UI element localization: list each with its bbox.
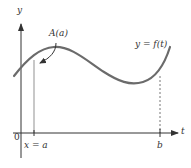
curve-label: y = f(t)	[135, 40, 167, 49]
area-annotation-label: A(a)	[49, 29, 68, 38]
b-marker-label: b	[157, 141, 163, 150]
a-marker-label: x = a	[24, 141, 48, 150]
area-function-diagram: y t 0 x = a b A(a) y = f(t)	[0, 0, 191, 168]
origin-label: 0	[14, 133, 20, 142]
t-axis-label: t	[181, 127, 185, 136]
function-curve	[14, 47, 170, 83]
y-axis-label: y	[17, 6, 22, 15]
